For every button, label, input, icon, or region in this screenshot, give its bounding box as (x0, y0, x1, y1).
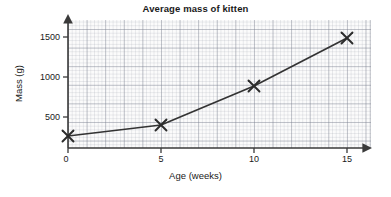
data-point-marker (342, 33, 353, 44)
x-tick-label-10: 10 (249, 154, 259, 164)
data-point-markers (63, 33, 353, 142)
chart-screenshot: Average mass of kitten (0, 0, 391, 197)
y-axis-title: Mass (g) (13, 44, 24, 124)
data-series-line (68, 38, 347, 136)
x-tick-label-15: 15 (342, 154, 352, 164)
y-tick-label-1500: 1500 (28, 32, 60, 42)
x-axis-title: Age (weeks) (0, 170, 391, 181)
y-tick-label-1000: 1000 (28, 72, 60, 82)
data-point-marker (249, 81, 260, 92)
chart-plot-svg (0, 0, 391, 197)
y-tick-label-500: 500 (28, 112, 60, 122)
x-tick-label-0: 0 (63, 154, 68, 164)
x-tick-label-5: 5 (158, 154, 163, 164)
